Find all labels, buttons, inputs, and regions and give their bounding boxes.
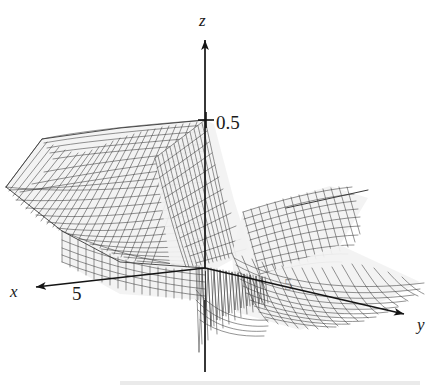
z-tick-label-0point5: 0.5 [216,112,240,133]
surface-mesh [6,120,424,352]
surface-plot-svg: x y z 5 5 0.5 [0,0,439,387]
x-axis-label: x [9,282,18,301]
figure-root: x y z 5 5 0.5 [0,0,439,387]
y-axis-label: y [415,315,425,334]
x-tick-label-5: 5 [72,283,82,304]
scan-smudge-band [120,381,420,385]
y-tick-label-5: 5 [284,275,293,294]
z-axis-label: z [198,11,206,30]
